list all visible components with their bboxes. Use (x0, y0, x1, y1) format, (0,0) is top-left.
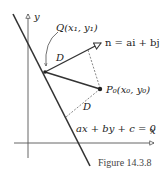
line-equation-label: ax + by + c = 0 (76, 123, 156, 134)
distance-label-lower: D (82, 101, 91, 112)
normal-vector-label: n = ai + bj (105, 37, 160, 48)
point-q (43, 70, 47, 74)
figure-caption: Figure 14.3.8 (98, 157, 152, 168)
distance-label-upper: D (55, 52, 64, 63)
point-q-label: Q(x₁, y₁) (56, 22, 98, 33)
y-axis-label: y (33, 11, 40, 22)
point-p0 (98, 87, 102, 91)
distance-point-line-diagram: y x Q(x₁, y₁) n = ai + bj D P₀(x₀, y₀) D… (0, 0, 164, 169)
point-p0-label: P₀(x₀, y₀) (105, 84, 150, 95)
segment-q-p0 (45, 72, 100, 89)
normal-vector (45, 43, 101, 72)
dashed-projection (88, 50, 100, 88)
